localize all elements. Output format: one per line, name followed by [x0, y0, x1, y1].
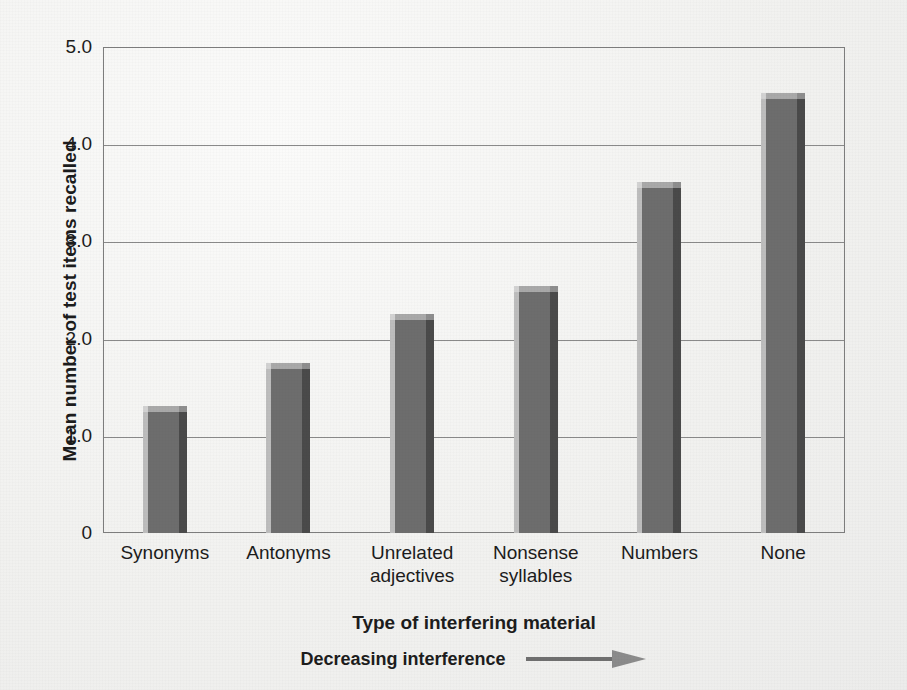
y-tick-label: 2.0	[20, 328, 92, 350]
bar-slot	[227, 47, 351, 533]
bar-slot	[350, 47, 474, 533]
x-tick-label-line: syllables	[474, 564, 598, 587]
y-tick-label: 0	[20, 522, 92, 544]
bar-synonyms[interactable]	[143, 412, 187, 534]
bar-top-cap	[514, 286, 558, 292]
bar-face	[266, 369, 310, 533]
bar-slot	[598, 47, 722, 533]
bar-slot	[474, 47, 598, 533]
bar-slot	[103, 47, 227, 533]
bar-nonsense-syllables[interactable]	[514, 292, 558, 533]
chart-page: Mean number of test items recalled 5.0 4…	[0, 0, 907, 690]
y-tick-label: 5.0	[20, 36, 92, 58]
bar-unrelated-adjectives[interactable]	[390, 320, 434, 533]
right-arrow-icon	[524, 648, 648, 670]
y-axis-tick-labels: 5.0 4.0 3.0 2.0 1.0 0	[10, 47, 92, 533]
x-tick-label: Antonyms	[227, 541, 351, 564]
bar-numbers[interactable]	[637, 188, 681, 533]
decreasing-interference-annotation: Decreasing interference	[103, 648, 845, 670]
x-tick-label-line: adjectives	[350, 564, 474, 587]
bar-top-cap	[390, 314, 434, 320]
bar-none[interactable]	[761, 99, 805, 533]
bars-layer	[103, 47, 845, 533]
bar-face	[761, 99, 805, 533]
bar-top-cap	[143, 406, 187, 412]
bar-face	[637, 188, 681, 533]
annotation-label: Decreasing interference	[300, 649, 505, 670]
bar-face	[514, 292, 558, 533]
x-tick-label: Numbers	[598, 541, 722, 564]
x-tick-label-line: Antonyms	[227, 541, 351, 564]
bar-top-cap	[761, 93, 805, 99]
bar-top-cap	[266, 363, 310, 369]
y-tick-label: 3.0	[20, 230, 92, 252]
bar-top-cap	[637, 182, 681, 188]
x-tick-label: Nonsensesyllables	[474, 541, 598, 587]
x-tick-label-line: Unrelated	[350, 541, 474, 564]
bar-slot	[721, 47, 845, 533]
x-tick-label-line: Nonsense	[474, 541, 598, 564]
y-tick-label: 4.0	[20, 133, 92, 155]
bar-face	[390, 320, 434, 533]
x-tick-label-line: Synonyms	[103, 541, 227, 564]
x-tick-label: None	[721, 541, 845, 564]
bar-face	[143, 412, 187, 534]
x-tick-label-line: None	[721, 541, 845, 564]
x-tick-label: Synonyms	[103, 541, 227, 564]
y-tick-label: 1.0	[20, 425, 92, 447]
bar-antonyms[interactable]	[266, 369, 310, 533]
x-axis-tick-labels: SynonymsAntonymsUnrelatedadjectivesNonse…	[103, 541, 845, 603]
x-tick-label: Unrelatedadjectives	[350, 541, 474, 587]
x-axis-title: Type of interfering material	[103, 612, 845, 634]
x-tick-label-line: Numbers	[598, 541, 722, 564]
